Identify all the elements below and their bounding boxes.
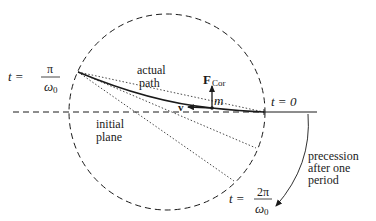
t-period-denominator: ω bbox=[255, 201, 264, 216]
mass-label: m bbox=[214, 93, 223, 108]
t-start-numerator: π bbox=[47, 62, 53, 76]
precession-arrow bbox=[276, 114, 308, 206]
t-period-lhs: t = bbox=[229, 191, 245, 206]
label-coriolis-force: F Cor bbox=[203, 72, 226, 88]
coriolis-sub: Cor bbox=[212, 78, 226, 88]
coriolis-f: F bbox=[203, 72, 211, 87]
label-t-start: t = π ω 0 bbox=[8, 62, 60, 95]
t-start-denominator: ω bbox=[44, 79, 53, 94]
t-zero-label: t = 0 bbox=[271, 94, 297, 109]
coriolis-precession-diagram: t = π ω 0 actual path initial plane F Co… bbox=[0, 0, 376, 221]
dotted-line-1 bbox=[78, 72, 264, 112]
initial-plane-label-1: initial bbox=[96, 117, 125, 131]
t-start-denominator-sub: 0 bbox=[53, 85, 58, 95]
initial-plane-label-2: plane bbox=[96, 130, 122, 144]
actual-path-label-2: path bbox=[139, 76, 160, 90]
t-period-numerator: 2π bbox=[257, 185, 269, 199]
label-t-period: t = 2π ω 0 bbox=[229, 185, 272, 217]
t-period-denominator-sub: 0 bbox=[264, 207, 269, 217]
precession-label-3: period bbox=[308, 173, 339, 187]
actual-path-label-1: actual bbox=[137, 63, 166, 77]
t-start-lhs: t = bbox=[8, 69, 24, 84]
velocity-label: v bbox=[178, 101, 184, 113]
